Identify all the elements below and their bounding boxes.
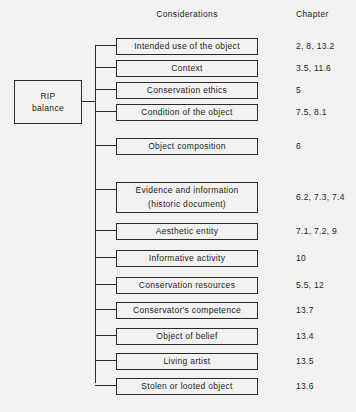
consideration-node: Context [116,60,258,77]
branch-connector-0 [95,45,116,46]
branch-connector-2 [95,89,116,90]
consideration-node: Aesthetic entity [116,223,258,240]
consideration-node-label: Conservation resources [139,279,235,292]
consideration-node: Intended use of the object [116,38,258,55]
consideration-node-label: Living artist [164,355,211,368]
consideration-node-label-secondary: (historic document) [148,198,226,211]
consideration-node: Living artist [116,353,258,370]
chapter-reference: 5 [296,85,301,95]
root-node-label-line1: RIP [40,90,55,102]
branch-connector-8 [95,284,116,285]
chapter-reference: 13.5 [296,356,314,366]
trunk-connector-line [95,45,96,383]
branch-connector-7 [95,257,116,258]
chapter-reference: 3.5, 11.6 [296,63,331,73]
branch-connector-9 [95,309,116,310]
consideration-node: Conservation resources [116,277,258,294]
branch-connector-3 [95,111,116,112]
branch-connector-10 [95,335,116,336]
chapter-reference: 13.4 [296,331,314,341]
consideration-node-label: Informative activity [149,252,225,265]
column-header-considerations: Considerations [116,9,258,19]
chapter-reference: 5.5, 12 [296,280,324,290]
chapter-reference: 13.7 [296,305,314,315]
chapter-reference: 6.2, 7.3, 7.4 [296,192,345,202]
consideration-node: Object composition [116,138,258,155]
consideration-node-label: Aesthetic entity [156,225,218,238]
root-node-label-line2: balance [32,102,64,114]
consideration-node: Evidence and information(historic docume… [116,182,258,213]
consideration-node: Object of belief [116,328,258,345]
consideration-node: Condition of the object [116,104,258,121]
consideration-node: Stolen or looted object [116,378,258,395]
branch-connector-12 [95,385,116,386]
consideration-node-label: Conservation ethics [147,84,227,97]
root-connector-line [82,101,96,102]
branch-connector-11 [95,360,116,361]
branch-connector-4 [95,145,116,146]
chapter-reference: 7.5, 8.1 [296,107,327,117]
consideration-node-label: Conservator's competence [133,304,241,317]
root-node-rip-balance: RIP balance [14,80,82,124]
chapter-reference: 2, 8, 13.2 [296,41,334,51]
consideration-node-label: Object composition [148,140,226,153]
consideration-node: Conservator's competence [116,302,258,319]
chapter-reference: 6 [296,141,301,151]
branch-connector-5 [95,189,116,190]
consideration-node: Informative activity [116,250,258,267]
consideration-node-label: Context [171,62,202,75]
consideration-node-label: Object of belief [156,330,218,343]
consideration-node-label: Evidence and information [135,184,238,197]
branch-connector-6 [95,230,116,231]
consideration-node-label: Stolen or looted object [141,380,233,393]
consideration-node-label: Condition of the object [141,106,233,119]
column-header-chapter: Chapter [296,9,329,19]
rip-balance-diagram: Considerations Chapter RIP balance Inten… [0,0,356,412]
chapter-reference: 13.6 [296,381,314,391]
consideration-node: Conservation ethics [116,82,258,99]
branch-connector-1 [95,67,116,68]
chapter-reference: 7.1, 7.2, 9 [296,226,337,236]
consideration-node-label: Intended use of the object [134,40,240,53]
chapter-reference: 10 [296,253,306,263]
